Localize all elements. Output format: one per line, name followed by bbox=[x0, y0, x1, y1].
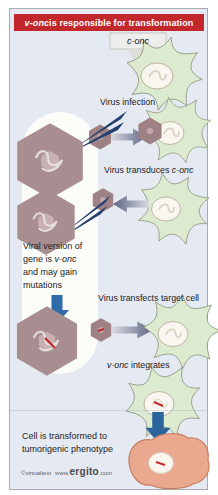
label-v-onc-integrates: v-onc integrates bbox=[107, 359, 170, 372]
header-title-text: is responsible for transformation bbox=[49, 18, 193, 28]
virus-particle-large-1 bbox=[29, 137, 71, 185]
c-onc-tag-label: c-onc bbox=[110, 33, 166, 49]
header-bar: v-onc is responsible for transformation bbox=[14, 14, 204, 31]
nucleus bbox=[158, 322, 188, 347]
header-gene-name: v-onc bbox=[25, 18, 50, 28]
virus-particle-large-2 bbox=[28, 201, 64, 243]
virus-particle-small-3-vonc bbox=[95, 323, 108, 338]
brand-name: ergito bbox=[69, 466, 99, 477]
footer-credit: ©virtualtext www. ergito .com bbox=[21, 466, 112, 477]
label-viral-version: Viral version of gene is v-onc and may g… bbox=[23, 240, 82, 292]
transduce-arrow-icon bbox=[113, 196, 149, 213]
label-cell-transformed: Cell is transformed to tumorigenic pheno… bbox=[22, 430, 113, 456]
brand-tld: .com bbox=[99, 470, 112, 476]
nucleus bbox=[141, 63, 173, 89]
label-virus-transfects: Virus transfects target cell bbox=[98, 292, 199, 305]
brand-www: www. bbox=[55, 470, 69, 476]
tumor-cell bbox=[129, 434, 209, 489]
section-divider bbox=[10, 410, 206, 411]
page: v-onc is responsible for transformation … bbox=[0, 0, 218, 495]
nucleus bbox=[152, 197, 181, 221]
transfect-arrow-icon bbox=[112, 322, 153, 339]
copyright-text: ©virtualtext bbox=[21, 470, 51, 476]
label-virus-transduces: Virus transduces c-onc bbox=[104, 164, 193, 177]
label-virus-infection: Virus infection bbox=[100, 96, 155, 109]
virus-particle-large-3-mutated bbox=[28, 319, 66, 363]
virus-entering-cell-icon bbox=[143, 123, 158, 140]
